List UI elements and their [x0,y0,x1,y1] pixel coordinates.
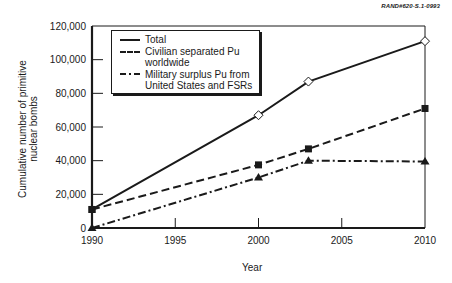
legend-label: Total [145,34,275,45]
square-marker-icon [255,161,262,168]
y-tick-label: 100,000 [50,54,87,65]
legend-label-line2: United States and FSRs [145,80,275,91]
reference-id: RAND#620-S.1-0993 [381,3,440,9]
x-tick-label: 2005 [331,235,354,246]
y-axis-label: Cumulative number of primitive nuclear b… [17,39,39,219]
series-line [92,161,425,228]
dash-dot-line-icon [120,71,140,77]
x-tick-label: 2010 [414,235,437,246]
y-tick-label: 20,000 [55,189,86,200]
legend-label-line2: worldwide [145,57,275,68]
legend-label: Civilian separated Pu worldwide [145,46,275,68]
x-tick-label: 1995 [164,235,187,246]
chart: 020,00040,00060,00080,000100,000120,0001… [0,0,452,283]
x-tick-label: 2000 [247,235,270,246]
dashed-line-icon [120,51,140,53]
y-tick-label: 40,000 [55,155,86,166]
y-tick-label: 80,000 [55,88,86,99]
square-marker-icon [305,145,312,152]
legend-label: Military surplus Pu from United States a… [145,69,275,91]
diamond-marker-icon [421,37,430,46]
y-axis-label-line1: Cumulative number of primitive [17,39,28,219]
square-marker-icon [422,105,429,112]
legend-label-line1: Military surplus Pu from [145,69,275,80]
x-tick-label: 1990 [81,235,104,246]
legend-label-line1: Civilian separated Pu [145,46,275,57]
square-marker-icon [89,206,96,213]
y-tick-label: 60,000 [55,122,86,133]
solid-line-icon [120,39,140,41]
y-axis-label-line2: nuclear bombs [28,39,39,219]
x-axis-label: Year [242,262,262,273]
legend: Total Civilian separated Pu worldwide Mi… [111,30,260,94]
y-tick-label: 120,000 [50,21,87,32]
y-tick-label: 0 [80,223,86,234]
series-line [92,108,425,209]
